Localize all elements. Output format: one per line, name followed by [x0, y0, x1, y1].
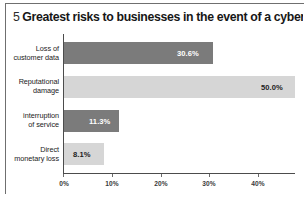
x-axis-tick-label-0: 0% [59, 180, 69, 187]
bar-chart-plot: 0% 10% 20% 30% 40% Loss of customer data… [0, 0, 308, 197]
bar-value-reputational-damage: 50.0% [261, 83, 283, 92]
bar-value-loss-of-customer-data: 30.6% [177, 49, 199, 58]
x-axis-tick-10 [112, 174, 113, 177]
x-axis-tick-label-30: 30% [202, 180, 216, 187]
x-axis-tick-40 [258, 174, 259, 177]
category-label-direct-monetary-loss: Direct monetary loss [6, 145, 59, 164]
x-axis-tick-0 [63, 174, 64, 177]
bar-value-interruption-of-service: 11.3% [89, 117, 110, 126]
x-axis-tick-label-10: 10% [105, 180, 119, 187]
bar-value-direct-monetary-loss: 8.1% [73, 150, 91, 159]
x-axis-tick-20 [161, 174, 162, 177]
category-label-interruption-of-service: interruption of service [6, 111, 59, 130]
infographic-figure: 5Greatest risks to businesses in the eve… [0, 0, 308, 197]
category-label-loss-of-customer-data: Loss of customer data [6, 44, 59, 63]
x-axis-line [63, 173, 295, 174]
x-axis-tick-30 [209, 174, 210, 177]
x-axis-tick-label-20: 20% [154, 180, 168, 187]
category-label-reputational-damage: Reputational damage [6, 77, 59, 96]
x-axis-tick-label-40: 40% [251, 180, 265, 187]
